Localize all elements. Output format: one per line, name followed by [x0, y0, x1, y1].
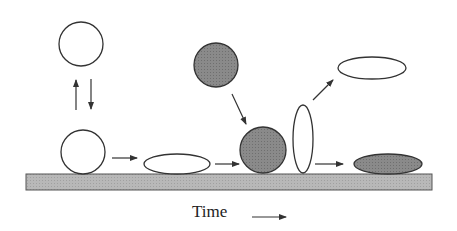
substrate-surface — [26, 174, 432, 190]
adsorbed-particle-filled — [240, 127, 286, 173]
desorbed-particle-open — [338, 57, 406, 79]
adsorbed-particle-open — [61, 130, 105, 174]
free-particle-filled — [194, 43, 238, 87]
upright-particle-open — [293, 105, 313, 173]
arrow-diagonal-down — [232, 94, 246, 124]
time-axis-label: Time — [192, 202, 227, 222]
spread-particle-open — [144, 154, 210, 174]
spread-particle-filled — [354, 154, 422, 174]
free-particle-open — [59, 22, 103, 66]
arrow-diagonal-up — [313, 80, 333, 100]
diagram-canvas — [0, 0, 457, 231]
